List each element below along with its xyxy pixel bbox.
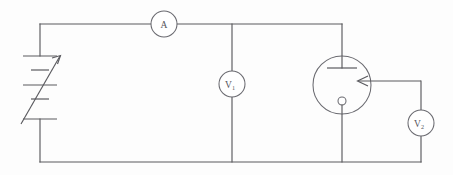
battery-variable-arrow-shaft: [21, 56, 60, 124]
voltmeter-1-subscript: 1: [232, 83, 235, 90]
voltmeter-2-subscript: 2: [421, 122, 424, 129]
battery-symbol: [21, 56, 61, 125]
ammeter: A: [151, 11, 177, 37]
phototube: [313, 24, 371, 162]
light-arrow: [358, 76, 422, 86]
voltmeter-2: V2: [408, 110, 434, 136]
phototube-cathode-dot: [338, 97, 346, 105]
voltmeter-1: V1: [219, 71, 245, 97]
ammeter-label: A: [161, 20, 168, 30]
circuit-diagram-canvas: A V1: [0, 0, 453, 175]
circuit-svg: A V1: [0, 0, 453, 175]
